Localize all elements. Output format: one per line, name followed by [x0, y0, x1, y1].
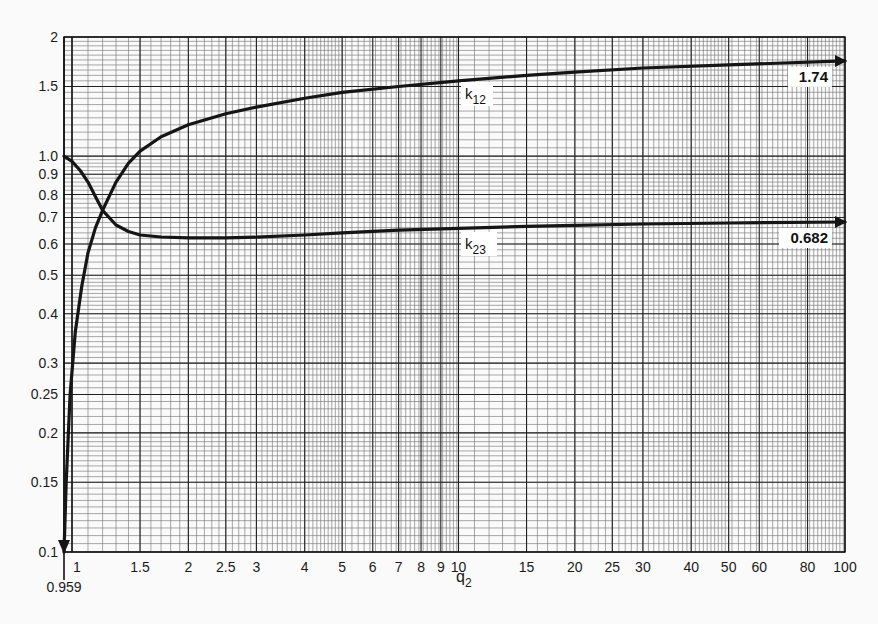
x-tick-label: 1 [73, 559, 81, 575]
x-tick-label: 3 [253, 559, 261, 575]
x-tick-label: 20 [567, 559, 583, 575]
x-tick-label: 60 [751, 559, 767, 575]
x-tick-label: 2.5 [216, 559, 236, 575]
grid [64, 37, 845, 552]
x-tick-label: 2 [184, 559, 192, 575]
y-tick-label: 1.0 [39, 148, 59, 164]
asymptote-label-k12: 1.74 [799, 68, 829, 85]
y-tick-label: 1.5 [39, 78, 59, 94]
x-tick-label: 15 [519, 559, 535, 575]
x-tick-label: 40 [683, 559, 699, 575]
y-tick-label: 2 [50, 29, 58, 45]
x-tick-label: 25 [605, 559, 621, 575]
y-tick-label: 0.9 [39, 166, 59, 182]
x-tick-label: 4 [301, 559, 309, 575]
x-tick-label: 30 [635, 559, 651, 575]
y-tick-label: 0.5 [39, 267, 59, 283]
curve-k12 [64, 61, 845, 552]
y-tick-label: 0.8 [39, 187, 59, 203]
x-tick-label: 8 [417, 559, 425, 575]
y-tick-label: 0.1 [39, 544, 59, 560]
x-tick-label: 5 [338, 559, 346, 575]
y-tick-label: 0.6 [39, 236, 59, 252]
y-tick-label: 0.25 [31, 386, 58, 402]
x-tick-label: 7 [395, 559, 403, 575]
y-tick-label: 0.3 [39, 355, 59, 371]
x-axis-title: q2 [456, 568, 472, 590]
y-axis-tick-labels: 0.10.150.20.250.30.40.50.60.70.80.91.01.… [31, 29, 58, 560]
y-tick-label: 0.2 [39, 425, 59, 441]
x-tick-label: 9 [437, 559, 445, 575]
y-tick-label: 0.4 [39, 306, 59, 322]
curve-k23 [64, 156, 845, 238]
x-tick-label: 1.5 [130, 559, 150, 575]
x-tick-label: 6 [369, 559, 377, 575]
x-tick-label: 50 [721, 559, 737, 575]
curve-labels: k12k231.740.682 [461, 67, 832, 257]
axes [64, 37, 845, 580]
y-tick-label: 0.15 [31, 474, 58, 490]
x-tick-label: 100 [833, 559, 857, 575]
y-tick-label: 0.7 [39, 209, 59, 225]
x-origin-label: 0.959 [46, 579, 81, 595]
x-tick-label: 80 [800, 559, 816, 575]
x-axis-tick-labels: 11.522.534567891015202530405060801000.95… [46, 559, 856, 595]
chart: 0.10.150.20.250.30.40.50.60.70.80.91.01.… [0, 0, 878, 624]
asymptote-label-k23: 0.682 [790, 229, 828, 246]
